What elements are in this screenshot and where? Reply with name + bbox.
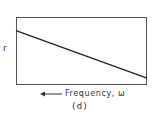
plot-area	[16, 17, 148, 87]
x-axis-label-row: Frequency, ω	[40, 89, 125, 98]
panel-label: (d)	[72, 101, 88, 111]
left-arrow-icon	[40, 90, 62, 98]
data-line	[16, 31, 147, 79]
y-axis-label: r	[3, 43, 7, 53]
x-axis-label: Frequency, ω	[65, 89, 125, 98]
